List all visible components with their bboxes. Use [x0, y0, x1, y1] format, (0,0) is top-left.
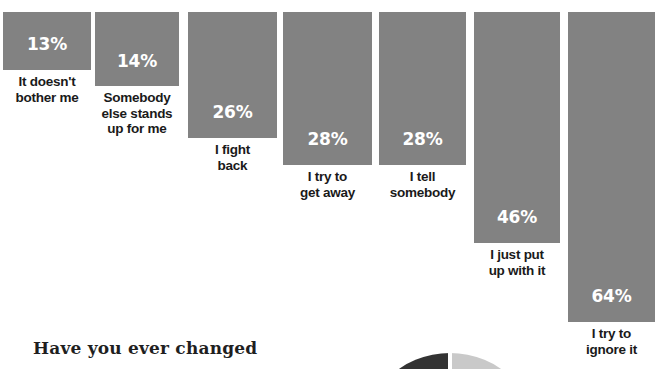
bar-category-line: I try to: [279, 169, 376, 185]
bar-category-line: back: [184, 158, 281, 174]
bar-category-line: else stands: [91, 106, 183, 122]
bar-value-label: 13%: [3, 36, 91, 53]
bar-value-label: 64%: [568, 288, 655, 305]
bar-category-line: I tell: [375, 169, 470, 185]
footer-headline: Have you ever changed: [33, 338, 257, 358]
bar-column: 46% I just put up with it: [474, 0, 560, 369]
bar-rect: [568, 12, 655, 322]
bar-category-line: I try to: [564, 326, 657, 342]
bar-category-line: I just put: [470, 247, 564, 263]
pie-slice-dark: [360, 353, 450, 369]
pie-chart: [355, 348, 545, 369]
bar-category-label: I fight back: [184, 142, 281, 173]
bar-column: 64% I try to ignore it: [568, 0, 655, 369]
bar-column: 26% I fight back: [188, 0, 277, 369]
bar-category-line: somebody: [375, 185, 470, 201]
bar-category-line: bother me: [0, 90, 95, 106]
bar-rect: [95, 12, 179, 86]
bar-category-label: I try to get away: [279, 169, 376, 200]
bar-category-line: up with it: [470, 263, 564, 279]
bar-column: 14% Somebody else stands up for me: [95, 0, 179, 369]
bar-category-line: get away: [279, 185, 376, 201]
pie-divider: [448, 351, 452, 369]
bar-column: 13% It doesn't bother me: [3, 0, 91, 369]
pie-chart-svg: [355, 348, 545, 369]
bar-category-label: I tell somebody: [375, 169, 470, 200]
pie-slice-light: [450, 353, 540, 369]
bar-value-label: 14%: [95, 53, 179, 70]
bar-category-line: Somebody: [91, 90, 183, 106]
bar-value-label: 28%: [379, 131, 466, 148]
bar-category-label: I just put up with it: [470, 247, 564, 278]
bullying-response-infographic: 13% It doesn't bother me 14% Somebody el…: [0, 0, 657, 369]
bar-category-line: up for me: [91, 121, 183, 137]
bar-category-line: ignore it: [564, 342, 657, 358]
bar-value-label: 26%: [188, 104, 277, 121]
bar-value-label: 28%: [283, 131, 372, 148]
bar-value-label: 46%: [474, 209, 560, 226]
bar-category-label: It doesn't bother me: [0, 74, 95, 105]
bar-column: 28% I try to get away: [283, 0, 372, 369]
bar-category-line: It doesn't: [0, 74, 95, 90]
bar-category-label: Somebody else stands up for me: [91, 90, 183, 137]
bar-column: 28% I tell somebody: [379, 0, 466, 369]
bar-category-label: I try to ignore it: [564, 326, 657, 357]
bar-category-line: I fight: [184, 142, 281, 158]
